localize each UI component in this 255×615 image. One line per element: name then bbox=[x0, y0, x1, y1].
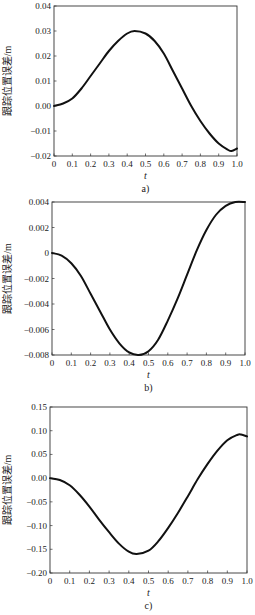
y-tick-label: −0.15 bbox=[26, 544, 47, 554]
chart-panel-b: 00.10.20.30.40.50.60.70.80.91.0−0.008−0.… bbox=[1, 197, 251, 394]
x-tick-label: 0.3 bbox=[104, 358, 116, 368]
y-tick-label: −0.02 bbox=[30, 151, 51, 161]
x-tick-label: 0.7 bbox=[176, 159, 188, 169]
panel-label: b) bbox=[144, 382, 152, 394]
y-tick-label: 0.02 bbox=[35, 51, 51, 61]
y-tick-label: 0.00 bbox=[31, 473, 47, 483]
y-tick-label: −0.01 bbox=[30, 126, 51, 136]
plot-frame bbox=[52, 202, 245, 355]
x-tick-label: 1.0 bbox=[231, 159, 243, 169]
x-tick-label: 0.5 bbox=[143, 576, 155, 586]
chart-canvas: 00.10.20.30.40.50.60.70.80.91.0−0.02−0.0… bbox=[0, 0, 255, 615]
y-axis-title: 跟踪位置误差/m bbox=[1, 243, 13, 314]
x-tick-label: 0 bbox=[50, 358, 55, 368]
y-tick-label: −0.002 bbox=[24, 274, 49, 284]
x-tick-label: 0.6 bbox=[158, 159, 170, 169]
y-axis-title: 跟踪位置误差/m bbox=[1, 455, 13, 526]
y-tick-label: 0.04 bbox=[35, 1, 51, 11]
x-tick-label: 0.6 bbox=[162, 358, 174, 368]
y-tick-label: 0.10 bbox=[31, 426, 47, 436]
x-tick-label: 0.9 bbox=[220, 358, 232, 368]
x-tick-label: 0.5 bbox=[140, 159, 152, 169]
panel-label: a) bbox=[142, 183, 150, 195]
y-tick-label: −0.008 bbox=[24, 350, 50, 360]
y-axis: −0.008−0.006−0.004−0.00200.0020.004 bbox=[24, 197, 55, 360]
y-axis: −0.02−0.010.000.010.020.030.04 bbox=[30, 1, 56, 161]
x-tick-label: 0.6 bbox=[163, 576, 175, 586]
x-tick-label: 0.9 bbox=[213, 159, 225, 169]
panel-label: c) bbox=[145, 600, 153, 612]
y-tick-label: −0.006 bbox=[24, 325, 50, 335]
y-tick-label: 0.002 bbox=[29, 223, 49, 233]
x-tick-label: 0.4 bbox=[123, 576, 135, 586]
y-tick-label: −0.20 bbox=[26, 568, 47, 578]
x-tick-label: 0.7 bbox=[182, 576, 194, 586]
x-tick-label: 0.3 bbox=[103, 159, 115, 169]
chart-panel-a: 00.10.20.30.40.50.60.70.80.91.0−0.02−0.0… bbox=[1, 1, 243, 195]
x-tick-label: 0.5 bbox=[143, 358, 155, 368]
x-tick-label: 0 bbox=[52, 159, 57, 169]
y-tick-label: 0.05 bbox=[31, 449, 47, 459]
x-tick-label: 1.0 bbox=[241, 576, 253, 586]
x-tick-label: 0.2 bbox=[85, 159, 96, 169]
y-axis-title: 跟踪位置误差/m bbox=[1, 46, 13, 117]
series-line bbox=[52, 202, 245, 355]
x-tick-label: 0.9 bbox=[222, 576, 234, 586]
x-tick-label: 0 bbox=[48, 576, 53, 586]
x-tick-label: 0.8 bbox=[195, 159, 207, 169]
x-tick-label: 0.2 bbox=[84, 576, 95, 586]
y-tick-label: −0.05 bbox=[26, 497, 47, 507]
y-tick-label: 0.004 bbox=[29, 197, 50, 207]
y-tick-label: 0 bbox=[45, 248, 50, 258]
y-tick-label: 0.01 bbox=[35, 76, 51, 86]
chart-panel-c: 00.10.20.30.40.50.60.70.80.91.0−0.20−0.1… bbox=[1, 402, 253, 612]
y-tick-label: 0.03 bbox=[35, 26, 51, 36]
x-tick-label: 0.1 bbox=[64, 576, 75, 586]
x-axis-title: t bbox=[147, 369, 150, 380]
y-tick-label: 0.15 bbox=[31, 402, 47, 412]
x-tick-label: 0.1 bbox=[66, 358, 77, 368]
x-axis-title: t bbox=[144, 170, 147, 181]
x-tick-label: 0.4 bbox=[122, 159, 134, 169]
y-tick-label: −0.004 bbox=[24, 299, 50, 309]
x-tick-label: 0.1 bbox=[67, 159, 78, 169]
x-tick-label: 0.3 bbox=[103, 576, 115, 586]
series-line bbox=[50, 434, 247, 554]
plot-frame bbox=[50, 407, 247, 573]
x-axis-title: t bbox=[147, 587, 150, 598]
x-tick-label: 0.4 bbox=[124, 358, 136, 368]
x-tick-label: 0.8 bbox=[201, 358, 213, 368]
x-tick-label: 0.8 bbox=[202, 576, 214, 586]
x-tick-label: 0.2 bbox=[85, 358, 96, 368]
series-line bbox=[54, 31, 237, 151]
x-tick-label: 0.7 bbox=[181, 358, 193, 368]
y-axis: −0.20−0.15−0.10−0.050.000.050.100.15 bbox=[26, 402, 52, 578]
y-tick-label: −0.10 bbox=[26, 521, 47, 531]
y-tick-label: 0.00 bbox=[35, 101, 51, 111]
x-tick-label: 1.0 bbox=[239, 358, 251, 368]
